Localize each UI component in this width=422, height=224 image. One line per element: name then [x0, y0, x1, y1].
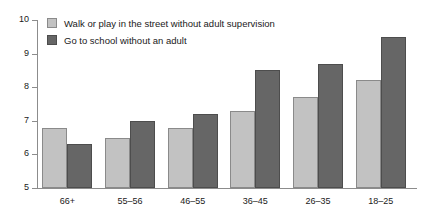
y-axis-tick-label: 8: [5, 82, 29, 91]
bar: [42, 128, 67, 188]
bar: [168, 128, 193, 188]
chart-legend: Walk or play in the street without adult…: [47, 16, 275, 50]
x-axis-line: [37, 188, 417, 189]
bar: [356, 80, 381, 188]
bar-chart: 5678910 66+55–5646–5536–4526–3518–25 Wal…: [0, 0, 422, 224]
y-axis-tick-label: 7: [5, 116, 29, 125]
x-axis-category-label: 18–25: [351, 196, 411, 206]
bar: [381, 37, 406, 188]
y-axis-tick: [32, 154, 37, 155]
legend-item-label: Go to school without an adult: [64, 35, 187, 46]
x-axis-category-label: 66+: [37, 196, 97, 206]
bar: [193, 114, 218, 188]
legend-item: Go to school without an adult: [47, 33, 275, 47]
bar: [293, 97, 318, 188]
y-axis-tick: [32, 54, 37, 55]
bar-group: [356, 20, 406, 188]
bar: [230, 111, 255, 188]
bar: [255, 70, 280, 188]
bar-group: [293, 20, 343, 188]
legend-item: Walk or play in the street without adult…: [47, 16, 275, 30]
bar: [105, 138, 130, 188]
x-axis-category-label: 26–35: [288, 196, 348, 206]
x-axis-category-label: 55–56: [100, 196, 160, 206]
y-axis-tick-label: 9: [5, 49, 29, 58]
x-axis-category-label: 36–45: [225, 196, 285, 206]
y-axis-tick-label: 5: [5, 183, 29, 192]
y-axis-tick: [32, 87, 37, 88]
x-axis-category-label: 46–55: [163, 196, 223, 206]
bar: [67, 144, 92, 188]
legend-item-label: Walk or play in the street without adult…: [64, 18, 275, 29]
y-axis-tick: [32, 121, 37, 122]
bar: [130, 121, 155, 188]
y-axis-tick: [32, 20, 37, 21]
legend-swatch-icon: [47, 18, 57, 28]
bar: [318, 64, 343, 188]
y-axis-tick-label: 10: [5, 15, 29, 24]
y-axis-tick-label: 6: [5, 149, 29, 158]
y-axis-tick: [32, 188, 37, 189]
legend-swatch-icon: [47, 35, 57, 45]
